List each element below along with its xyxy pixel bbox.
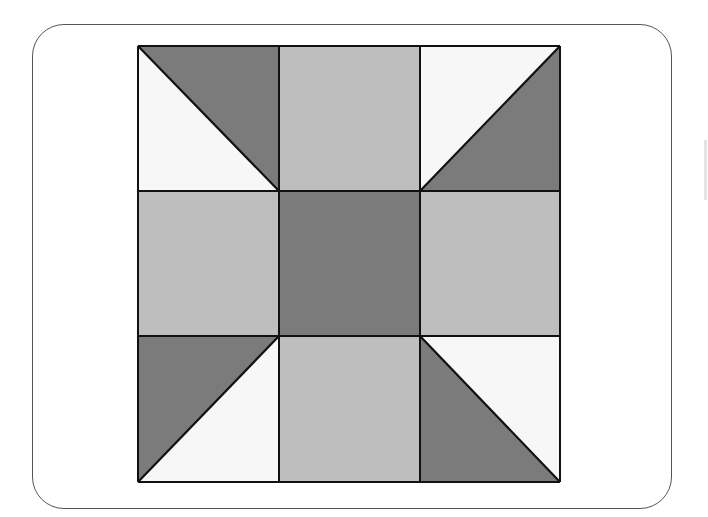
quilt-block-diagram: [0, 0, 708, 517]
quilt-cell-r0-c1: [279, 46, 420, 191]
quilt-cell-r1-c2: [420, 191, 560, 336]
quilt-cell-r1-c0: [138, 191, 279, 336]
quilt-cell-r1-c1: [279, 191, 420, 336]
quilt-cell-r2-c1: [279, 336, 420, 482]
